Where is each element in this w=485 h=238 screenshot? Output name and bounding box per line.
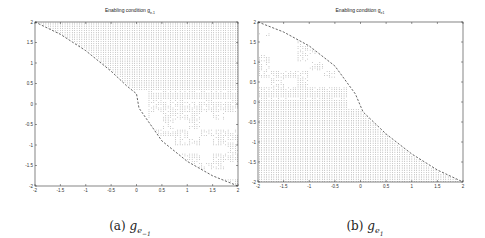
- y-tick-label: 1.5: [27, 40, 34, 45]
- y-tick-label: -1.5: [25, 163, 33, 168]
- axes-box: [35, 22, 238, 186]
- x-tick-label: -0.5: [331, 184, 339, 189]
- axis-ticks: -2-1.5-1-0.500.511.5221.510.50-0.5-1-1.5…: [25, 20, 240, 193]
- x-tick-label: 1: [186, 188, 189, 193]
- y-tick-label: -1: [29, 143, 33, 148]
- x-tick-label: -2: [256, 184, 260, 189]
- y-tick-label: 0: [30, 102, 33, 107]
- y-tick-label: -1: [252, 140, 256, 145]
- y-tick-label: -2: [252, 180, 256, 185]
- boundary-curve: [35, 22, 238, 186]
- x-tick-label: 0: [359, 184, 362, 189]
- y-tick-label: 0.5: [27, 81, 34, 86]
- plot-a: -2-1.5-1-0.500.511.5221.510.50-0.5-1-1.5…: [0, 0, 242, 238]
- y-tick-label: -0.5: [25, 122, 33, 127]
- boundary-curve: [258, 22, 463, 182]
- y-tick-label: -1.5: [248, 160, 256, 165]
- panel-b: -2-1.5-1-0.500.511.5221.510.50-0.5-1-1.5…: [242, 0, 485, 238]
- y-tick-label: -0.5: [248, 120, 256, 125]
- caption-b: (b) ge1: [346, 219, 383, 237]
- y-tick-label: -2: [29, 184, 33, 189]
- x-tick-label: -1: [84, 188, 88, 193]
- x-tick-label: -2: [33, 188, 37, 193]
- y-tick-label: 0: [253, 100, 256, 105]
- x-tick-label: -1.5: [56, 188, 64, 193]
- x-tick-label: -0.5: [107, 188, 115, 193]
- caption-subsub: −1: [142, 230, 151, 237]
- x-tick-label: 0.5: [159, 188, 166, 193]
- y-tick-label: 0.5: [250, 80, 257, 85]
- caption-symbol: g: [130, 219, 138, 233]
- y-tick-label: 2: [30, 20, 33, 25]
- caption-prefix: (a): [109, 219, 126, 233]
- y-tick-label: 1: [253, 60, 256, 65]
- panel-a: -2-1.5-1-0.500.511.5221.510.50-0.5-1-1.5…: [0, 0, 242, 238]
- x-tick-label: 0.5: [383, 184, 390, 189]
- plot-title-text: Enabling condition g: [336, 7, 381, 13]
- caption-subsub: 1: [380, 230, 384, 237]
- plot-area: -2-1.5-1-0.500.511.5221.510.50-0.5-1-1.5…: [25, 20, 240, 193]
- y-tick-label: 1.5: [250, 40, 257, 45]
- x-tick-label: 0: [135, 188, 138, 193]
- x-tick-label: 1.5: [209, 188, 216, 193]
- y-tick-label: 1: [30, 61, 33, 66]
- axis-ticks: -2-1.5-1-0.500.511.5221.510.50-0.5-1-1.5…: [248, 20, 465, 189]
- plot-title-b: Enabling condition ge1: [336, 7, 385, 15]
- plot-title-a: Enabling condition ge-1: [105, 7, 155, 15]
- plot-b: -2-1.5-1-0.500.511.5221.510.50-0.5-1-1.5…: [242, 0, 485, 238]
- x-tick-label: 1.5: [434, 184, 441, 189]
- axes-box: [258, 22, 463, 182]
- caption-prefix: (b): [346, 219, 363, 233]
- x-tick-label: 2: [237, 188, 240, 193]
- x-tick-label: 1: [410, 184, 413, 189]
- dot-field: [259, 34, 458, 182]
- y-tick-label: 2: [253, 20, 256, 25]
- plot-title-sub: e1: [381, 11, 385, 15]
- plot-title-sub: e-1: [150, 11, 155, 15]
- plot-title-text: Enabling condition g: [105, 7, 150, 13]
- x-tick-label: -1.5: [280, 184, 288, 189]
- caption-a: (a) ge−1: [109, 219, 151, 237]
- caption-symbol: g: [367, 219, 375, 233]
- x-tick-label: 2: [462, 184, 465, 189]
- x-tick-label: -1: [307, 184, 311, 189]
- plot-area: -2-1.5-1-0.500.511.5221.510.50-0.5-1-1.5…: [248, 20, 465, 189]
